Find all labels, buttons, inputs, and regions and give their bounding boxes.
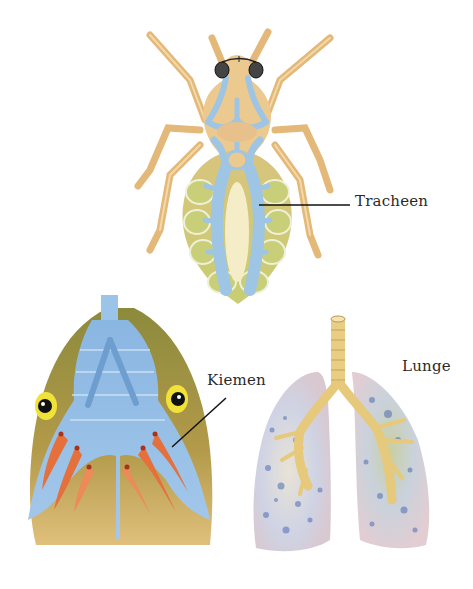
respiratory-organs-illustration — [0, 0, 473, 589]
insect-figure — [138, 32, 330, 304]
kiemen-label: Kiemen — [207, 371, 266, 389]
fish-head-figure — [28, 295, 212, 545]
lungs-figure — [254, 316, 430, 551]
tracheen-label: Tracheen — [355, 192, 428, 210]
lunge-label: Lunge — [402, 357, 451, 375]
